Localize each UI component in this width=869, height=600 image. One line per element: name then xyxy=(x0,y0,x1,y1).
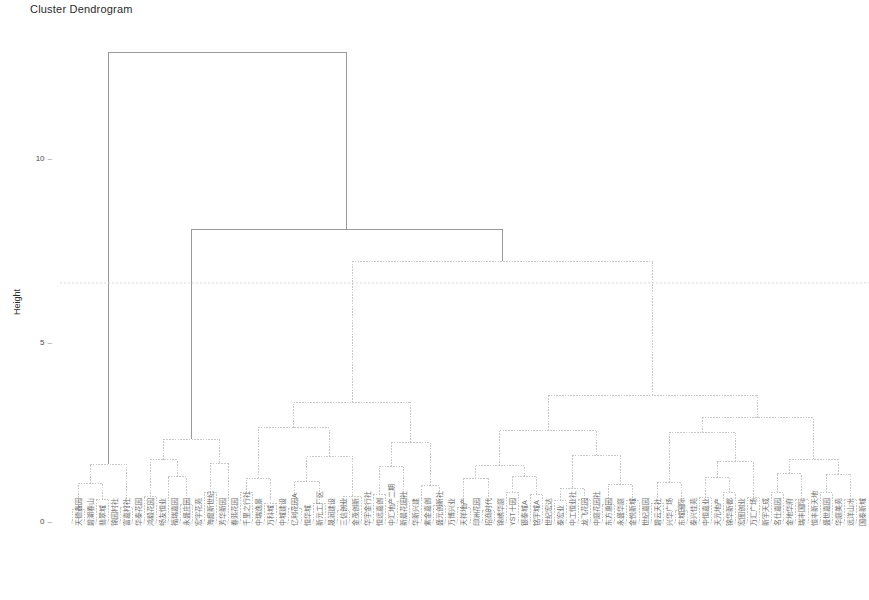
leaf-label: 中庭花园社 xyxy=(593,491,600,526)
leaf-label: 中城建设 xyxy=(279,498,286,526)
leaf-label: 名仕嘉园 xyxy=(774,498,781,526)
leaf-label: 锦园村社 xyxy=(111,498,118,526)
leaf-label: YST十园 xyxy=(509,498,516,526)
leaf-label: 盛元创新社 xyxy=(436,491,443,526)
leaf-label: 芳华新园 xyxy=(219,498,226,526)
leaf-label: 金地华府 xyxy=(786,498,793,526)
leaf-label: 鸿毅花园 xyxy=(147,498,154,526)
leaf-label: 东城国际 xyxy=(678,498,685,526)
leaf-label: 千里之行社 xyxy=(243,491,250,526)
leaf-label: 招商时代 xyxy=(485,498,492,526)
leaf-label: 万博兴业 xyxy=(448,498,455,526)
leaf-label: 兴华广场 xyxy=(666,498,673,526)
leaf-label: 金茂创新 xyxy=(352,498,359,526)
leaf-label: 翡翠城 xyxy=(99,505,106,526)
leaf-label: 万科城 xyxy=(267,505,274,526)
leaf-label: 恒丰新天地 xyxy=(811,491,818,526)
leaf-label: 亿利花园A xyxy=(291,493,298,526)
leaf-label: 晟润建设 xyxy=(328,498,335,526)
leaf-label: 泰兴佳苑 xyxy=(690,498,697,526)
leaf-label: 碧云天社 xyxy=(654,498,661,526)
leaf-label: 印洲花园 xyxy=(473,498,480,526)
dendrogram-plot: Cluster Dendrogram Height 10– 5– 0– 天德鑫园… xyxy=(0,0,869,600)
leaf-label: 碧湖春山 xyxy=(87,498,94,526)
leaf-label: 金悦新城 xyxy=(629,498,636,526)
leaf-label: 春熙花园 xyxy=(231,498,238,526)
leaf-label: 天元地产 xyxy=(714,498,721,526)
leaf-label: 天德鑫园 xyxy=(75,498,82,526)
leaf-label: 宏宇花苑 xyxy=(195,498,202,526)
leaf-label: 华宇金行社 xyxy=(364,491,371,526)
leaf-label: 泰宏业 xyxy=(557,505,564,526)
leaf-label: 远洋山水 xyxy=(847,498,854,526)
leaf-label: 新元工厂区 xyxy=(316,491,323,526)
leaf-label: 三信创业 xyxy=(340,498,347,526)
leaf-label: 世纪宏达 xyxy=(545,498,552,526)
leaf-label: 世纪嘉园 xyxy=(642,498,649,526)
leaf-label: 华庭美苑 xyxy=(835,498,842,526)
leaf-label: 新晨花园社 xyxy=(400,491,407,526)
leaf-label: 盛世嘉园 xyxy=(823,498,830,526)
leaf-label: 中工恒业社 xyxy=(569,491,576,526)
leaf-label: 中瑞逸景 xyxy=(255,498,262,526)
leaf-label: 锦华新都 xyxy=(726,498,733,526)
leaf-label-group: 天德鑫园碧湖春山翡翠城锦园村社富嘉村社华泰花园鸿毅花园畅友恒业福瑞嘉园永盛庄园宏… xyxy=(0,0,869,600)
leaf-label: 华泰花园 xyxy=(135,498,142,526)
leaf-label: 天祥地产 xyxy=(460,498,467,526)
leaf-label: 永盛庄园 xyxy=(183,498,190,526)
leaf-label: 富嘉村社 xyxy=(123,498,130,526)
leaf-label: 永盛华庭 xyxy=(617,498,624,526)
leaf-label: 恒华城 xyxy=(304,505,311,526)
leaf-label: 铭宇城A xyxy=(533,500,540,526)
leaf-label: 中汇地产二期 xyxy=(388,484,395,526)
leaf-label: 新宇天成 xyxy=(762,498,769,526)
leaf-label: 宏图创业 xyxy=(738,498,745,526)
leaf-label: 银泰城A xyxy=(521,500,528,526)
leaf-label: 国泰新城 xyxy=(859,498,866,526)
leaf-label: 紫金嘉创 xyxy=(424,498,431,526)
leaf-label: 华新兴建 xyxy=(412,498,419,526)
leaf-label: 海度新世纪 xyxy=(207,491,214,526)
leaf-label: 万汇广场 xyxy=(750,498,757,526)
leaf-label: 瑞丰国际 xyxy=(798,498,805,526)
leaf-label: 中恒嘉业 xyxy=(702,498,709,526)
leaf-label: 畅友恒业 xyxy=(159,498,166,526)
leaf-label: 龙飞花园 xyxy=(581,498,588,526)
leaf-label: 福瑞嘉园 xyxy=(171,498,178,526)
leaf-label: 锦绣华庭 xyxy=(497,498,504,526)
leaf-label: 东方惠园 xyxy=(605,498,612,526)
leaf-label: 恒远嘉创 xyxy=(376,498,383,526)
